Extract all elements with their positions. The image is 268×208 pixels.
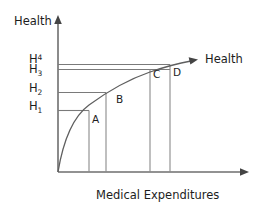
- h1-base: H: [29, 99, 38, 113]
- x-axis: [58, 168, 249, 176]
- x-axis-arrow-icon: [240, 168, 249, 176]
- curve-arrow-icon: [189, 57, 198, 64]
- health-production-function-figure: Health Medical Expenditures Health H 4 H…: [0, 0, 268, 208]
- curve-path: [58, 61, 191, 172]
- h1-subscript: 1: [38, 106, 43, 115]
- chart-canvas: Health Medical Expenditures Health H 4 H…: [0, 0, 268, 208]
- region-label-d: D: [173, 66, 181, 78]
- h2-subscript: 2: [38, 88, 43, 97]
- h3-tick-label: H 3: [29, 62, 43, 78]
- y-axis-title: Health: [14, 14, 52, 28]
- region-label-a: A: [92, 113, 100, 125]
- h3-subscript: 3: [38, 69, 43, 78]
- region-label-c: C: [153, 68, 160, 80]
- y-axis-arrow-icon: [54, 15, 62, 24]
- y-axis: [54, 15, 62, 172]
- h2-tick-label: H 2: [29, 81, 43, 97]
- h3-base: H: [29, 62, 38, 76]
- h4-subscript: 4: [38, 53, 43, 62]
- region-label-b: B: [116, 93, 123, 105]
- h1-tick-label: H 1: [29, 99, 43, 115]
- curve-title: Health: [205, 52, 243, 66]
- h2-base: H: [29, 81, 38, 95]
- x-axis-title: Medical Expenditures: [96, 188, 219, 202]
